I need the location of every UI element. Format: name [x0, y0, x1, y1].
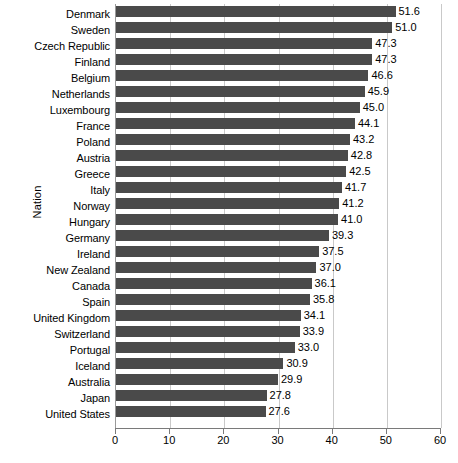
bar-value-label: 37.5 [319, 244, 343, 260]
bar-value-label: 42.5 [346, 164, 370, 180]
bar [116, 214, 338, 225]
x-axis-tick-label: 20 [203, 434, 243, 446]
bar-row: 33.9 [116, 324, 441, 340]
category-label: Germany [18, 230, 110, 246]
bar-value-label: 29.9 [278, 372, 302, 388]
bar-value-label: 47.3 [372, 36, 396, 52]
bar-row: 47.3 [116, 36, 441, 52]
bar-row: 27.6 [116, 404, 441, 420]
bar-row: 27.8 [116, 388, 441, 404]
bar-value-label: 44.1 [355, 116, 379, 132]
bar [116, 182, 342, 193]
category-label: Belgium [18, 70, 110, 86]
x-axis-tick-label: 30 [258, 434, 298, 446]
bar-value-label: 30.9 [283, 356, 307, 372]
category-label: Ireland [18, 246, 110, 262]
bar [116, 6, 396, 17]
bar-value-label: 51.0 [392, 20, 416, 36]
bar-value-label: 42.8 [348, 148, 372, 164]
bar-value-label: 45.9 [365, 84, 389, 100]
bar-row: 33.0 [116, 340, 441, 356]
bar [116, 390, 267, 401]
category-label: Denmark [18, 6, 110, 22]
bar-row: 37.0 [116, 260, 441, 276]
bar [116, 54, 372, 65]
category-label: United States [18, 406, 110, 422]
bar [116, 294, 310, 305]
bar-row: 42.5 [116, 164, 441, 180]
bar-row: 47.3 [116, 52, 441, 68]
category-label: Poland [18, 134, 110, 150]
category-label: United Kingdom [18, 310, 110, 326]
category-label: France [18, 118, 110, 134]
category-label: Hungary [18, 214, 110, 230]
category-label: Netherlands [18, 86, 110, 102]
x-axis-tick-label: 40 [312, 434, 352, 446]
bar [116, 22, 392, 33]
bar-row: 35.8 [116, 292, 441, 308]
bar-row: 36.1 [116, 276, 441, 292]
category-label: Spain [18, 294, 110, 310]
bar-row: 39.3 [116, 228, 441, 244]
category-label: Switzerland [18, 326, 110, 342]
bar [116, 102, 360, 113]
bar [116, 166, 346, 177]
bar-value-label: 35.8 [310, 292, 334, 308]
bar-row: 34.1 [116, 308, 441, 324]
category-label: Luxembourg [18, 102, 110, 118]
bar-value-label: 51.6 [396, 4, 420, 20]
category-label: Iceland [18, 358, 110, 374]
category-label: Sweden [18, 22, 110, 38]
gridline [441, 4, 442, 428]
bar-value-label: 27.8 [267, 388, 291, 404]
bar-row: 43.2 [116, 132, 441, 148]
category-label: Canada [18, 278, 110, 294]
category-label: Greece [18, 166, 110, 182]
bar-value-label: 47.3 [372, 52, 396, 68]
bar [116, 326, 300, 337]
bar-row: 44.1 [116, 116, 441, 132]
bar-value-label: 41.2 [339, 196, 363, 212]
bar [116, 198, 339, 209]
bar [116, 246, 319, 257]
category-axis: DenmarkSwedenCzech RepublicFinlandBelgiu… [18, 6, 110, 422]
bar [116, 118, 355, 129]
bar [116, 278, 312, 289]
x-axis-tick-label: 50 [366, 434, 406, 446]
bar-value-label: 33.0 [295, 340, 319, 356]
bar [116, 406, 266, 417]
bar [116, 310, 301, 321]
bar-value-label: 36.1 [312, 276, 336, 292]
bar-value-label: 45.0 [360, 100, 384, 116]
bar [116, 262, 316, 273]
category-label: Austria [18, 150, 110, 166]
bar-value-label: 33.9 [300, 324, 324, 340]
category-label: Czech Republic [18, 38, 110, 54]
bar-value-label: 46.6 [368, 68, 392, 84]
bars-layer: 51.651.047.347.346.645.945.044.143.242.8… [116, 4, 441, 428]
bar-value-label: 27.6 [266, 404, 290, 420]
bar-row: 29.9 [116, 372, 441, 388]
bar [116, 374, 278, 385]
bar-row: 30.9 [116, 356, 441, 372]
x-axis-tick-label: 10 [149, 434, 189, 446]
bar-row: 37.5 [116, 244, 441, 260]
bar-row: 46.6 [116, 68, 441, 84]
category-label: Finland [18, 54, 110, 70]
bar-value-label: 34.1 [301, 308, 325, 324]
bar-value-label: 43.2 [350, 132, 374, 148]
bar-row: 41.7 [116, 180, 441, 196]
bar [116, 70, 368, 81]
plot-area: 51.651.047.347.346.645.945.044.143.242.8… [115, 4, 442, 428]
bar [116, 230, 329, 241]
category-label: New Zealand [18, 262, 110, 278]
bar [116, 358, 283, 369]
category-label: Portugal [18, 342, 110, 358]
bar-chart: Nation DenmarkSwedenCzech RepublicFinlan… [0, 0, 458, 463]
bar-row: 51.6 [116, 4, 441, 20]
bar-row: 45.9 [116, 84, 441, 100]
bar [116, 38, 372, 49]
bar-value-label: 41.7 [342, 180, 366, 196]
bar-row: 41.2 [116, 196, 441, 212]
category-label: Norway [18, 198, 110, 214]
